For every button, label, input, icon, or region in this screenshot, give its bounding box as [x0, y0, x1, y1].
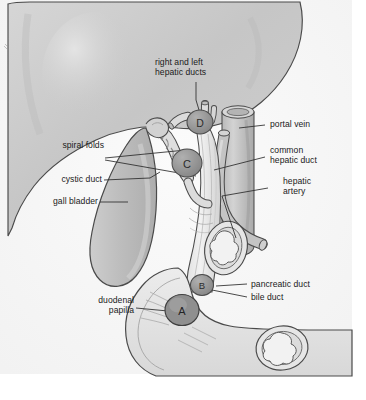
label-spiral-folds: spiral folds [22, 140, 104, 150]
label-pancreatic-duct: pancreatic duct [251, 279, 310, 289]
liver-highlight [42, 12, 150, 136]
label-gall-bladder: gall bladder [12, 196, 98, 206]
right-hepatic-duct-cut-end [202, 101, 209, 105]
marker-A-label: A [178, 305, 186, 317]
label-hepatic-artery: hepatic artery [283, 176, 311, 197]
marker-C-label: C [183, 158, 191, 170]
marker-D[interactable]: D [187, 110, 213, 134]
marker-D-label: D [196, 117, 204, 129]
illustration-figure: D C B A right and left hepatic ducts spi… [0, 0, 366, 400]
label-cystic-duct: cystic duct [22, 174, 102, 184]
label-duodenal-papilla: duodenal papilla [48, 295, 134, 316]
portal-vein-lumen [227, 108, 249, 115]
marker-C[interactable]: C [172, 149, 202, 177]
label-common-hepatic-duct: common hepatic duct [270, 145, 317, 166]
label-portal-vein: portal vein [270, 119, 310, 129]
label-hepatic-ducts: right and left hepatic ducts [155, 57, 206, 78]
marker-B-label: B [199, 280, 205, 291]
label-bile-duct: bile duct [251, 292, 283, 302]
marker-A[interactable]: A [165, 295, 199, 326]
marker-B[interactable]: B [191, 275, 214, 296]
hepatic-artery-cut-end [218, 130, 229, 136]
